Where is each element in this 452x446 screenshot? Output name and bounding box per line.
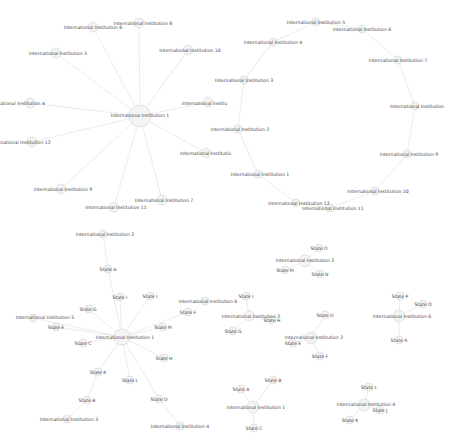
node-label: State I (113, 295, 128, 300)
node-label: State I (239, 294, 254, 299)
node-label: International Institution 4 (244, 40, 302, 45)
node-label: State R (391, 338, 409, 343)
node-label: International Institution 9 (34, 187, 92, 192)
node-label: International Institution 4 (151, 424, 209, 429)
node-label: State G (79, 307, 97, 312)
edge (258, 174, 296, 203)
edge (407, 106, 415, 154)
edge (140, 116, 206, 153)
node-label: State Q (414, 302, 432, 307)
node-label: International Institution 2 (285, 335, 343, 340)
edge (159, 399, 180, 426)
node-label: State E (285, 341, 302, 346)
node-label: State H (263, 318, 280, 323)
node-label: State D (316, 313, 334, 318)
node-label: International Institution 1 (111, 113, 169, 118)
node-label: State H (155, 356, 172, 361)
node-label: State G (224, 329, 242, 334)
edge (238, 129, 258, 174)
node-label: International Institution 6 (179, 299, 237, 304)
edge (61, 116, 140, 189)
edge (103, 234, 108, 269)
node-label: International Institution 6 (373, 314, 431, 319)
node-label: State M (276, 268, 294, 273)
edge (244, 42, 273, 80)
node-label: State J (373, 408, 388, 413)
node-label: International Institu (182, 101, 227, 106)
edge (93, 27, 140, 116)
node-label: State N (311, 272, 328, 277)
node-label: State D (150, 397, 168, 402)
node-label: International Institution 8 (114, 21, 172, 26)
node-label: ational Institution 4 (0, 101, 45, 106)
node-label: International Institution 10 (347, 189, 408, 194)
node-label: International Institution 3 (215, 78, 273, 83)
edge (32, 116, 140, 142)
node-label: State C (75, 341, 92, 346)
node-label: International Institution 4 (337, 402, 395, 407)
node-label: International Institution 5 (287, 20, 345, 25)
node-label: State L (361, 385, 378, 390)
node-label: International Institution 1 (96, 335, 154, 340)
node-label: International Institution 7 (369, 58, 427, 63)
node-label: State B (79, 398, 96, 403)
edge (362, 29, 398, 60)
node-label: State B (265, 378, 282, 383)
edge (398, 60, 415, 106)
node-label: State F (312, 354, 329, 359)
node-label: State P (392, 294, 409, 299)
labels-layer: International Institution 1International… (0, 20, 444, 431)
node-label: State F (180, 310, 197, 315)
node-label: International Institution 2 (211, 127, 269, 132)
node-label: International Institution 1 (227, 405, 285, 410)
node-label: International Institution (390, 104, 444, 109)
edge (56, 53, 140, 116)
edge (114, 116, 140, 207)
node-label: International Institution 6 (333, 27, 391, 32)
node-label: State K (342, 418, 360, 423)
node-label: State A (100, 267, 118, 272)
node-label: State K (90, 370, 108, 375)
node-label: International Institution 3 (40, 417, 98, 422)
edge (140, 50, 188, 116)
node-label: International Institutio (180, 151, 231, 156)
node-label: State D (310, 246, 328, 251)
node-label: State L (122, 378, 139, 383)
network-diagram: International Institution 1International… (0, 0, 452, 446)
node-label: International Institution 7 (135, 198, 193, 203)
node-label: International Institution 11 (302, 206, 363, 211)
edge (375, 154, 407, 191)
edge (87, 372, 98, 400)
node-label: national Institution 12 (0, 140, 51, 145)
node-label: International Institution 9 (380, 152, 438, 157)
node-label: State A (233, 387, 251, 392)
node-label: International Institution 1 (231, 172, 289, 177)
node-label: International Institution 11 (85, 205, 146, 210)
edge (238, 80, 244, 129)
node-label: State E (48, 325, 65, 330)
node-label: International Institution 2 (76, 232, 134, 237)
node-label: State M (154, 325, 172, 330)
node-label: International Institution 5 (29, 51, 87, 56)
edge (273, 22, 316, 42)
node-label: International Institution 5 (16, 315, 74, 320)
edge (139, 23, 140, 116)
node-label: International Institution 10 (159, 48, 220, 53)
edge (140, 116, 162, 200)
node-label: International Institution 3 (276, 258, 334, 263)
node-label: State I (143, 294, 158, 299)
node-label: State C (246, 426, 263, 431)
